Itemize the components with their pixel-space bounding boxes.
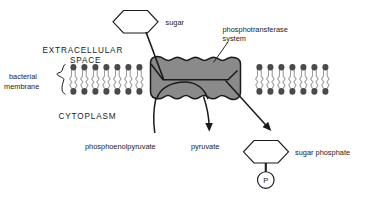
- sugar-hexagon: [113, 11, 158, 34]
- label-phosphoenolpyruvate: phosphoenolpyruvate: [85, 142, 156, 151]
- label-sugar: sugar: [166, 18, 185, 27]
- label-pyruvate: pyruvate: [191, 142, 219, 151]
- label-extracellular-space-line1: EXTRACELLULAR: [43, 46, 124, 55]
- lipid-heads-right-outer: [256, 64, 328, 71]
- membrane-brace: [57, 65, 66, 95]
- lipid-bilayer-left: [70, 64, 144, 95]
- label-cytoplasm: CYTOPLASM: [59, 112, 117, 121]
- label-bacterial-membrane-line1: bacterial: [9, 72, 37, 81]
- phosphotransferase-protein-body: [151, 57, 241, 100]
- label-extracellular-space-line2: SPACE: [70, 56, 101, 65]
- phosphoenolpyruvate-curve: [154, 98, 156, 134]
- lipid-bilayer-right: [256, 64, 330, 95]
- diagram-canvas: sugar phosphotransferase system EXTRACEL…: [0, 0, 366, 198]
- lipid-tails-left: [70, 70, 144, 89]
- pyruvate-arrow: [204, 97, 210, 128]
- label-bacterial-membrane-line2: membrane: [4, 82, 39, 91]
- label-sugar-phosphate: sugar phosphate: [295, 148, 350, 157]
- sugar-phosphate-hexagon: [244, 141, 289, 164]
- lipid-heads-left-inner: [70, 88, 142, 95]
- phosphotransferase-diagram: sugar phosphotransferase system EXTRACEL…: [0, 0, 366, 198]
- label-phosphotransferase-system-line2: system: [223, 34, 246, 43]
- lipid-tails-right: [256, 70, 330, 89]
- label-phosphate-group: P: [263, 176, 268, 185]
- lipid-heads-right-inner: [256, 88, 328, 95]
- label-phosphotransferase-system-line1: phosphotransferase: [223, 25, 288, 34]
